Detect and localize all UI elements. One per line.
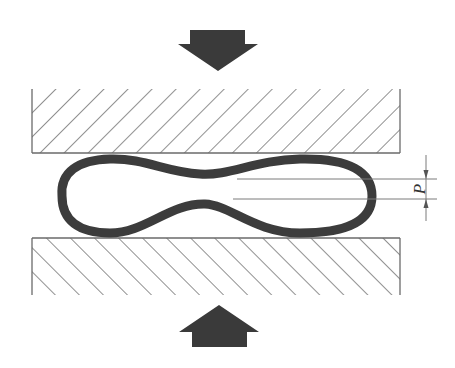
bottom-plate: [32, 238, 400, 295]
up-arrow-icon: [179, 305, 259, 347]
compressed-tube: [62, 159, 372, 233]
down-arrow-icon: [178, 30, 258, 71]
dimension-arrow-up-icon: [424, 199, 429, 208]
top-plate: [32, 89, 400, 153]
dimension-arrow-down-icon: [424, 170, 429, 179]
compression-diagram: P: [0, 0, 455, 368]
dimension-label-p: P: [410, 184, 429, 195]
